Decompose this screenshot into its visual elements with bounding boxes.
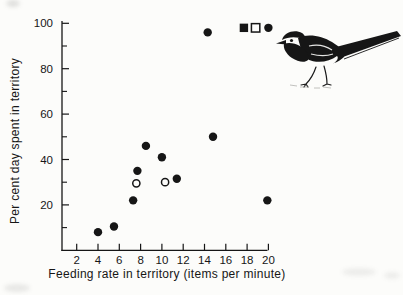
x-tick-label: 8 — [137, 254, 143, 266]
y-tick-label: 40 — [40, 154, 53, 166]
data-point-filled-square — [240, 24, 248, 32]
y-tick-label: 60 — [40, 108, 53, 120]
data-point-filled-circle — [142, 142, 150, 150]
x-tick-label: 12 — [177, 254, 190, 266]
x-tick-label: 6 — [116, 254, 122, 266]
data-point-filled-circle — [94, 228, 102, 236]
x-axis-title: Feeding rate in territory (items per min… — [48, 267, 285, 281]
data-point-filled-circle — [110, 222, 118, 230]
x-tick-label: 4 — [95, 254, 102, 266]
y-tick-label: 80 — [40, 63, 53, 75]
x-tick-label: 18 — [241, 254, 254, 266]
data-point-filled-circle — [173, 175, 181, 183]
data-point-filled-circle — [158, 153, 166, 161]
data-point-open-square — [251, 24, 259, 32]
bird-eye — [290, 39, 293, 42]
bird-crown — [282, 31, 305, 40]
x-tick-label: 20 — [262, 254, 275, 266]
scatter-figure: 204060801002468101214161820 Per cent day… — [0, 0, 403, 295]
data-point-open-circle — [161, 179, 168, 186]
data-point-filled-circle — [263, 196, 271, 204]
bird-beak — [276, 40, 286, 45]
x-tick-label: 14 — [198, 254, 211, 266]
data-point-filled-circle — [203, 28, 211, 36]
y-tick-label: 100 — [34, 17, 53, 29]
data-point-open-circle — [133, 180, 140, 187]
y-tick-label: 20 — [40, 199, 53, 211]
x-tick-label: 10 — [156, 254, 169, 266]
y-axis-title: Per cent day spent in territory — [8, 58, 22, 224]
data-point-filled-circle — [209, 133, 217, 141]
data-point-filled-circle — [129, 196, 137, 204]
data-point-filled-circle — [133, 167, 141, 175]
bird-legs — [301, 66, 331, 87]
x-tick-label: 2 — [73, 254, 79, 266]
data-point-filled-circle — [264, 24, 272, 32]
pied-wagtail-illustration — [276, 29, 403, 91]
bird-tail — [336, 31, 401, 57]
x-tick-label: 16 — [219, 254, 232, 266]
